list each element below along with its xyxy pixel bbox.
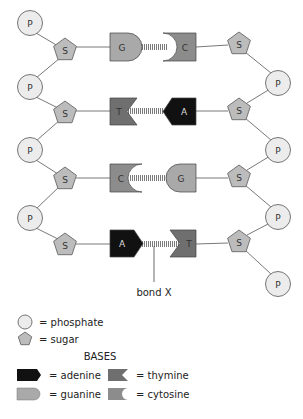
base-pair-4: A T — [110, 230, 196, 257]
hydrogen-bond-x — [142, 241, 180, 247]
svg-text:P: P — [27, 19, 33, 29]
legend: = phosphate = sugar BASES = adenine = th… — [17, 315, 190, 400]
cytosine-icon — [108, 388, 128, 400]
svg-text:T: T — [185, 239, 192, 249]
legend-sugar: = sugar — [18, 332, 79, 345]
cytosine-base — [163, 33, 196, 61]
svg-text:P: P — [275, 280, 281, 290]
base-pair-3: C G — [110, 164, 196, 192]
adenine-base — [110, 230, 143, 257]
phosphate-icon — [18, 315, 32, 329]
legend-phosphate: = phosphate — [18, 315, 103, 329]
svg-text:= phosphate: = phosphate — [39, 317, 103, 328]
base-pair-2: T A — [110, 98, 196, 125]
sugar-right-2: S — [228, 98, 251, 120]
sugar-left-1: S — [54, 38, 77, 60]
svg-text:S: S — [236, 106, 242, 116]
hydrogen-bond — [130, 175, 167, 181]
phosphate-left-3: P — [18, 138, 43, 163]
svg-text:S: S — [62, 46, 68, 56]
thymine-icon — [108, 369, 128, 381]
guanine-icon — [17, 388, 40, 400]
svg-text:P: P — [275, 146, 281, 156]
svg-text:S: S — [62, 109, 68, 119]
guanine-base — [110, 33, 142, 61]
svg-text:P: P — [27, 214, 33, 224]
svg-text:A: A — [181, 107, 188, 117]
sugar-left-2: S — [54, 101, 77, 123]
svg-text:T: T — [115, 107, 122, 117]
svg-text:G: G — [119, 43, 126, 53]
svg-text:= cytosine: = cytosine — [136, 389, 190, 400]
left-backbone — [36, 33, 110, 244]
adenine-icon — [17, 369, 41, 381]
dna-diagram: P P P P S S S S S S S S — [0, 0, 303, 419]
sugar-right-4: S — [228, 230, 251, 252]
sugar-right-1: S — [228, 32, 251, 54]
svg-text:S: S — [62, 175, 68, 185]
svg-text:A: A — [119, 239, 126, 249]
sugar-icon — [18, 332, 31, 345]
hydrogen-bond — [128, 108, 164, 114]
svg-text:= adenine: = adenine — [49, 370, 101, 381]
bond-x-label: bond X — [136, 287, 171, 298]
svg-text:= thymine: = thymine — [136, 370, 189, 381]
phosphate-right-1: P — [266, 71, 291, 96]
base-pair-1: G C — [110, 33, 196, 61]
hydrogen-bond — [140, 44, 167, 50]
sugar-right-3: S — [228, 165, 251, 187]
legend-thymine: = thymine — [108, 369, 189, 381]
phosphate-right-4: P — [266, 272, 291, 297]
svg-text:P: P — [27, 83, 33, 93]
svg-text:P: P — [275, 79, 281, 89]
svg-text:C: C — [182, 43, 188, 53]
svg-text:S: S — [236, 173, 242, 183]
sugar-left-4: S — [54, 233, 77, 255]
phosphate-left-1: P — [18, 11, 43, 36]
svg-text:= sugar: = sugar — [39, 334, 80, 345]
adenine-base — [163, 98, 196, 125]
svg-text:C: C — [118, 174, 124, 184]
sugar-left-3: S — [54, 167, 77, 189]
legend-adenine: = adenine — [17, 369, 101, 381]
legend-guanine: = guanine — [17, 388, 101, 400]
svg-text:S: S — [236, 238, 242, 248]
svg-text:P: P — [27, 146, 33, 156]
svg-text:S: S — [62, 241, 68, 251]
svg-text:P: P — [275, 213, 281, 223]
svg-text:= guanine: = guanine — [49, 389, 101, 400]
legend-cytosine: = cytosine — [108, 388, 190, 400]
svg-text:G: G — [178, 174, 185, 184]
bond-x-annotation: bond X — [136, 246, 171, 298]
phosphate-left-4: P — [18, 206, 43, 231]
svg-text:S: S — [236, 40, 242, 50]
phosphate-right-2: P — [266, 138, 291, 163]
phosphate-left-2: P — [18, 75, 43, 100]
bases-heading: BASES — [84, 351, 117, 362]
phosphate-right-3: P — [266, 205, 291, 230]
